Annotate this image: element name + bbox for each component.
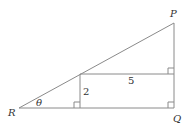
side-rp-hypotenuse (19, 23, 174, 108)
measurement-label-2: 2 (83, 86, 89, 97)
vertex-label-r: R (7, 107, 16, 118)
vertex-label-q: Q (173, 113, 181, 124)
measurement-label-5: 5 (128, 75, 134, 86)
right-angle-marker-inner-bottom (74, 102, 80, 108)
triangle-diagram: R Q P θ 2 5 (0, 0, 191, 124)
right-angle-marker-top (168, 68, 174, 74)
vertex-label-p: P (169, 8, 177, 19)
right-angle-marker-q (168, 102, 174, 108)
angle-label-theta: θ (36, 97, 42, 108)
